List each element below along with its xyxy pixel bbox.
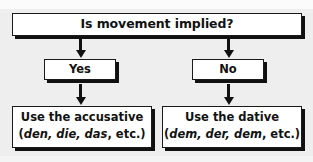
- close-paren: ): [295, 127, 300, 141]
- branch-label-no: No: [219, 63, 237, 77]
- arrow-shaft: [79, 39, 82, 50]
- arrow-head-icon: [224, 97, 234, 105]
- arrow-shaft: [227, 39, 230, 50]
- result-node-dative: Use the dative (dem, der, dem, etc.): [162, 106, 302, 148]
- arrow-shaft: [79, 84, 82, 97]
- paper-top-edge: [0, 0, 313, 9]
- result-dative-articles: (dem, der, dem, etc.): [164, 128, 300, 142]
- arrow-question-to-yes: [78, 39, 83, 58]
- arrow-head-icon: [76, 97, 86, 105]
- accusative-article-list: den, die, das: [24, 127, 108, 141]
- branch-label-yes: Yes: [69, 63, 91, 77]
- dative-article-list: dem, der, dem: [169, 127, 262, 141]
- arrow-no-to-dative: [226, 84, 231, 105]
- branch-node-no: No: [192, 59, 264, 80]
- question-label: Is movement implied?: [81, 17, 234, 32]
- arrow-yes-to-accusative: [78, 84, 83, 105]
- arrow-question-to-no: [226, 39, 231, 58]
- result-accusative-title: Use the accusative: [21, 111, 143, 125]
- result-node-accusative: Use the accusative (den, die, das, etc.): [12, 106, 152, 148]
- paper-bottom-edge: [0, 156, 313, 162]
- flowchart-diagram: Is movement implied? Yes No Use the accu…: [0, 0, 313, 162]
- result-dative-title: Use the dative: [185, 111, 279, 125]
- article-separator: ,: [107, 127, 115, 141]
- arrow-shaft: [227, 84, 230, 97]
- result-accusative-articles: (den, die, das, etc.): [18, 128, 145, 142]
- arrow-head-icon: [224, 50, 234, 58]
- etc-label: etc.: [116, 127, 140, 141]
- close-paren: ): [140, 127, 145, 141]
- arrow-head-icon: [76, 50, 86, 58]
- question-node: Is movement implied?: [12, 13, 302, 36]
- etc-label: etc.: [270, 127, 294, 141]
- branch-node-yes: Yes: [44, 59, 116, 80]
